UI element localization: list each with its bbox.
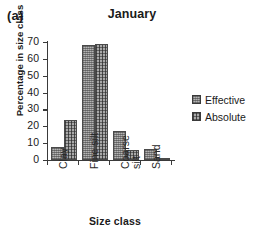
- legend-swatch-effective: [192, 95, 201, 104]
- y-axis-title: Percentage in size class: [14, 0, 25, 125]
- y-tick-label: 70: [27, 35, 39, 47]
- x-axis-title: Size class: [60, 215, 170, 227]
- y-tick-label: 60: [27, 52, 39, 64]
- y-tick-label: 30: [27, 102, 39, 114]
- y-tick-label: 10: [27, 136, 39, 148]
- x-tick-mark: [171, 160, 172, 165]
- chart-figure: (a) January Percentage in size class 010…: [0, 0, 260, 252]
- x-tick-mark: [78, 160, 79, 165]
- x-tick-mark: [109, 160, 110, 165]
- y-tick-label: 0: [33, 153, 39, 165]
- legend-item-absolute: Absolute: [192, 109, 246, 124]
- legend-swatch-absolute: [192, 112, 201, 121]
- chart-title: January: [72, 7, 192, 21]
- chart-legend: EffectiveAbsolute: [192, 92, 246, 126]
- y-tick-label: 20: [27, 119, 39, 131]
- x-tick-label-sand: Sand: [151, 144, 162, 169]
- plot-area: [47, 42, 171, 160]
- y-tick-label: 40: [27, 86, 39, 98]
- x-tick-label-fine-silt: Fine silt: [89, 133, 100, 169]
- x-tick-mark: [47, 160, 48, 165]
- legend-label-absolute: Absolute: [205, 111, 246, 123]
- legend-item-effective: Effective: [192, 92, 246, 107]
- x-tick-label-coarse-silt: silt: [131, 156, 142, 169]
- x-tick-label-clay: Clay: [58, 148, 69, 169]
- x-tick-label-coarse-silt: Coarse: [120, 135, 131, 169]
- y-tick-label: 50: [27, 69, 39, 81]
- legend-label-effective: Effective: [205, 94, 245, 106]
